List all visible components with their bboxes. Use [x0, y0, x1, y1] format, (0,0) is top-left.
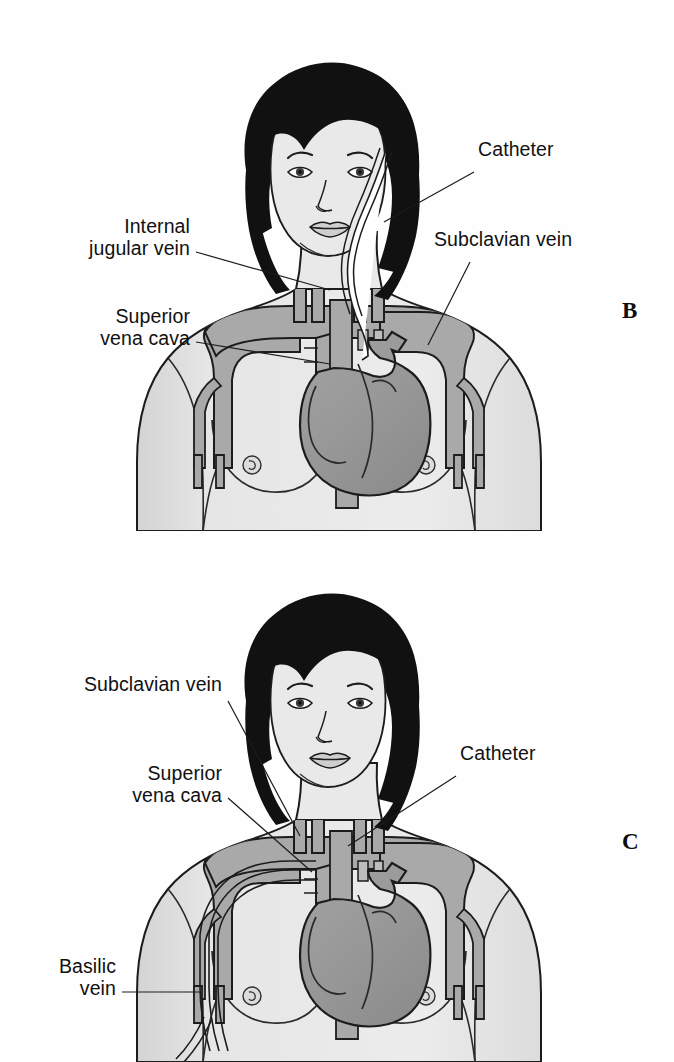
panel-letter-c: C: [622, 829, 639, 855]
label-basilic-vein: Basilic vein: [24, 955, 116, 999]
nipple-left: [243, 987, 261, 1005]
panel-c: Subclavian vein Superior vena cava Cathe…: [0, 531, 674, 1062]
panel-b-illustration: [0, 0, 674, 531]
eye-left: [288, 699, 312, 709]
panel-letter-b: B: [622, 298, 637, 324]
figure-page: Internal jugular vein Superior vena cava…: [0, 0, 674, 1062]
nipple-left: [243, 456, 261, 474]
panel-b: Internal jugular vein Superior vena cava…: [0, 0, 674, 531]
label-subclavian-vein: Subclavian vein: [26, 673, 222, 695]
label-subclavian-vein: Subclavian vein: [434, 228, 624, 250]
label-internal-jugular-vein: Internal jugular vein: [30, 215, 190, 259]
eye-right: [348, 699, 372, 709]
label-superior-vena-cava: Superior vena cava: [46, 762, 222, 806]
label-catheter: Catheter: [478, 138, 608, 160]
eye-left: [288, 168, 312, 178]
label-superior-vena-cava: Superior vena cava: [30, 305, 190, 349]
label-catheter: Catheter: [460, 742, 590, 764]
eye-right: [348, 168, 372, 178]
